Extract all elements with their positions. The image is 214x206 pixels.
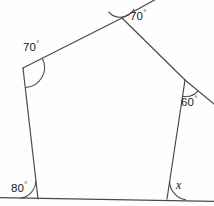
- angle-value-bottom-right: x: [176, 178, 182, 192]
- edge-top-right: [122, 18, 185, 80]
- geometry-figure: 70° 70° 60° 80° x: [0, 0, 214, 206]
- angle-value-bottom-left: 80: [11, 182, 24, 194]
- degree-symbol-top-right: °: [143, 8, 146, 17]
- degree-symbol-right: °: [194, 94, 197, 103]
- angle-value-top-left: 70: [23, 41, 36, 53]
- angle-label-70-top-right: 70°: [130, 9, 146, 22]
- angle-label-70-top-left: 70°: [23, 40, 39, 53]
- degree-symbol-bottom-left: °: [24, 180, 27, 189]
- angle-value-right: 60: [181, 96, 194, 108]
- baseline-segment: [0, 198, 214, 202]
- angle-value-top-right: 70: [130, 10, 143, 22]
- angle-label-60-right: 60°: [181, 95, 197, 108]
- degree-symbol-top-left: °: [36, 39, 39, 48]
- angle-label-80-bottom-left: 80°: [11, 181, 27, 194]
- angle-label-x-bottom-right: x: [176, 179, 182, 191]
- angle-arc-top-left: [26, 58, 45, 87]
